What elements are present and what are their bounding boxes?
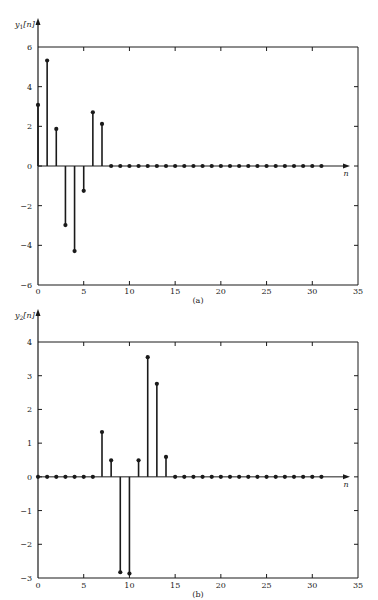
x-tick-label: 15 — [170, 581, 180, 590]
stem-marker — [173, 475, 177, 479]
stem-marker — [127, 572, 131, 576]
stem-marker — [255, 475, 259, 479]
y-tick-label: 2 — [27, 405, 32, 414]
stem-marker — [310, 164, 314, 168]
stem-marker — [63, 475, 67, 479]
stem-marker — [182, 164, 186, 168]
stem-marker — [228, 164, 232, 168]
x-tick-label: 0 — [35, 287, 40, 296]
y-tick-label: 0 — [27, 162, 32, 171]
stem-marker — [91, 475, 95, 479]
stem-marker — [146, 164, 150, 168]
stem-marker — [45, 58, 49, 62]
x-tick-label: 5 — [81, 287, 86, 296]
stem-marker — [210, 164, 214, 168]
x-tick-label: 10 — [124, 581, 134, 590]
stem-marker — [164, 164, 168, 168]
stem-marker — [118, 164, 122, 168]
stem-marker — [45, 475, 49, 479]
stem-marker — [91, 110, 95, 114]
stem-marker — [182, 475, 186, 479]
stem-marker — [155, 382, 159, 386]
x-tick-label: 35 — [353, 287, 363, 296]
figure: 05101520253035−6−4−20246y1[n]n(a) 051015… — [0, 0, 378, 600]
stem-marker — [319, 475, 323, 479]
stem-marker — [100, 430, 104, 434]
stem-marker — [310, 475, 314, 479]
y-axis-arrow-icon — [36, 18, 41, 25]
x-tick-label: 0 — [35, 581, 40, 590]
stem-marker — [54, 127, 58, 131]
stem-marker — [173, 164, 177, 168]
stem-marker — [301, 164, 305, 168]
y-tick-label: 3 — [27, 372, 32, 381]
y-tick-label: 1 — [27, 439, 32, 448]
chart-b: 05101520253035−3−2−101234y2[n]n(b) — [14, 309, 363, 599]
stem-marker — [264, 475, 268, 479]
stem-marker — [72, 475, 76, 479]
x-tick-label: 20 — [216, 581, 226, 590]
stem-marker — [82, 189, 86, 193]
stem-marker — [246, 475, 250, 479]
y-tick-label: 4 — [27, 83, 32, 92]
y-tick-label: −6 — [20, 281, 32, 290]
stem-marker — [210, 475, 214, 479]
stem-marker — [301, 475, 305, 479]
stem-marker — [100, 122, 104, 126]
stem-marker — [283, 475, 287, 479]
stem-marker — [54, 475, 58, 479]
y-tick-label: 2 — [27, 122, 32, 131]
stem-marker — [283, 164, 287, 168]
stem-marker — [274, 475, 278, 479]
chart-a: 05101520253035−6−4−20246y1[n]n(a) — [14, 18, 363, 305]
stem-marker — [146, 355, 150, 359]
y-tick-label: 6 — [27, 43, 32, 52]
x-axis-label: n — [343, 169, 348, 178]
stem-plots: 05101520253035−6−4−20246y1[n]n(a) 051015… — [0, 0, 378, 600]
stem-marker — [237, 475, 241, 479]
stem-marker — [255, 164, 259, 168]
y-axis-label: y2[n] — [14, 311, 36, 321]
x-tick-label: 30 — [307, 287, 317, 296]
stem-marker — [136, 458, 140, 462]
x-tick-label: 15 — [170, 287, 180, 296]
stem-marker — [200, 164, 204, 168]
stem-marker — [136, 164, 140, 168]
stem-marker — [219, 164, 223, 168]
y-tick-label: −4 — [20, 241, 32, 250]
stem-marker — [292, 475, 296, 479]
stem-marker — [36, 475, 40, 479]
y-axis-arrow-icon — [36, 309, 41, 316]
x-tick-label: 30 — [307, 581, 317, 590]
zero-line-arrow-icon — [343, 474, 350, 479]
stem-marker — [109, 458, 113, 462]
y-tick-label: −2 — [20, 540, 32, 549]
stem-marker — [109, 164, 113, 168]
stem-marker — [246, 164, 250, 168]
y-tick-label: −1 — [20, 507, 32, 516]
stem-marker — [264, 164, 268, 168]
x-tick-label: 35 — [353, 581, 363, 590]
y-tick-label: −3 — [20, 574, 32, 583]
stem-marker — [36, 103, 40, 107]
y-tick-label: 4 — [27, 338, 32, 347]
stem-marker — [237, 164, 241, 168]
stem-marker — [319, 164, 323, 168]
stem-marker — [72, 249, 76, 253]
y-axis-label: y1[n] — [14, 20, 36, 30]
stem-marker — [292, 164, 296, 168]
x-tick-label: 10 — [124, 287, 134, 296]
panel-caption: (b) — [192, 590, 203, 599]
stem-marker — [191, 164, 195, 168]
x-tick-label: 25 — [261, 581, 271, 590]
stem-marker — [164, 455, 168, 459]
stem-marker — [127, 164, 131, 168]
stem-marker — [63, 223, 67, 227]
stem-marker — [155, 164, 159, 168]
stem-marker — [82, 475, 86, 479]
stem-marker — [191, 475, 195, 479]
x-tick-label: 25 — [261, 287, 271, 296]
x-tick-label: 5 — [81, 581, 86, 590]
x-tick-label: 20 — [216, 287, 226, 296]
stem-marker — [219, 475, 223, 479]
